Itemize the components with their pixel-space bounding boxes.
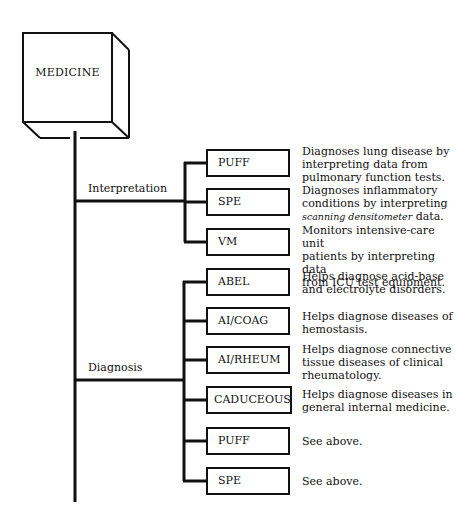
system-box-spe-diagnosis: SPE	[206, 467, 290, 495]
system-box-caduceous: CADUCEOUS	[206, 386, 292, 414]
system-box-vm: VM	[206, 228, 290, 256]
system-desc-puff-diagnosis: See above.	[302, 435, 456, 448]
system-desc-puff: Diagnoses lung disease by interpreting d…	[302, 145, 456, 184]
system-box-puff: PUFF	[206, 149, 290, 177]
system-desc-caduceous: Helps diagnose diseases in general inter…	[302, 388, 456, 414]
system-box-abel: ABEL	[206, 268, 290, 296]
root-label: MEDICINE	[23, 66, 112, 79]
system-box-puff-diagnosis: PUFF	[206, 427, 290, 455]
branch-label-interpretation: Interpretation	[88, 182, 167, 195]
system-desc-ai-coag: Helps diagnose diseases of hemostasis.	[302, 310, 456, 336]
system-box-spe: SPE	[206, 188, 290, 216]
system-desc-ai-rheum: Helps diagnose connective tissue disease…	[302, 343, 456, 382]
branch-label-diagnosis: Diagnosis	[88, 361, 142, 374]
medicine-cube	[23, 33, 129, 138]
system-box-ai-rheum: AI/RHEUM	[206, 346, 290, 374]
system-desc-spe-diagnosis: See above.	[302, 475, 456, 488]
system-desc-spe: Diagnoses inflammatory conditions by int…	[302, 184, 456, 223]
system-desc-abel: Helps diagnose acid-base and electrolyte…	[302, 270, 456, 296]
system-box-ai-coag: AI/COAG	[206, 307, 290, 335]
